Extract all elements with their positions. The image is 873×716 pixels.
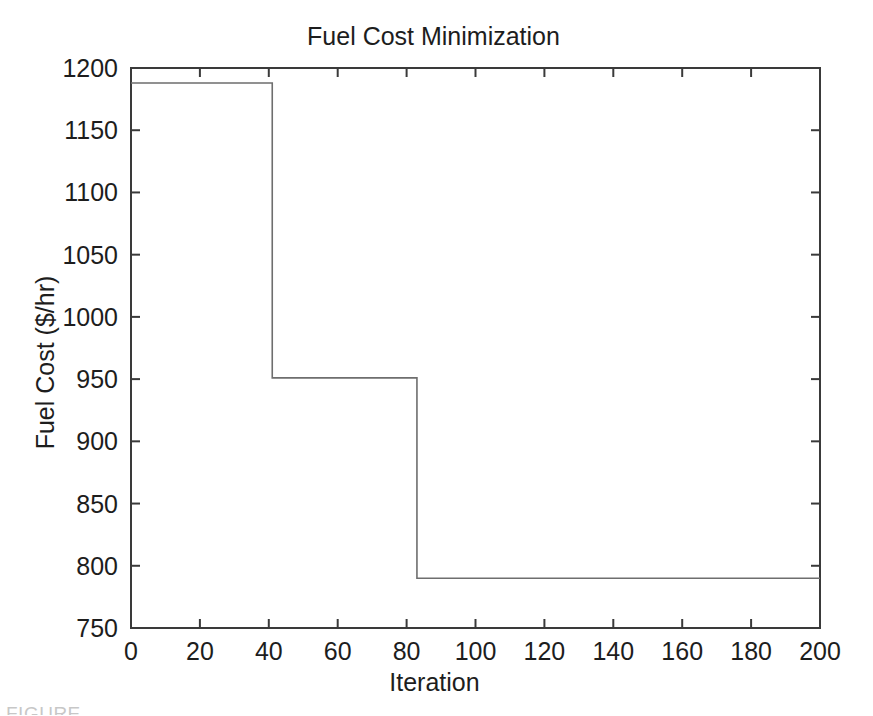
x-axis-label-text: Iteration xyxy=(389,668,479,696)
y-tick-label: 750 xyxy=(30,614,118,643)
y-tick-label: 1200 xyxy=(30,54,118,83)
y-tick-label: 1100 xyxy=(30,178,118,207)
x-tick-label: 0 xyxy=(124,637,138,666)
y-tick-label: 800 xyxy=(30,551,118,580)
x-tick-label: 160 xyxy=(661,637,703,666)
x-tick-label: 200 xyxy=(799,637,841,666)
caption-fragment: FIGURE xyxy=(6,703,246,715)
y-axis-label: Fuel Cost ($/hr) xyxy=(31,213,60,513)
x-axis-label: Iteration xyxy=(0,668,873,697)
figure-canvas: Fuel Cost Minimization 75080085090095010… xyxy=(0,0,873,716)
x-tick-label: 20 xyxy=(186,637,214,666)
plot-box-frame xyxy=(131,68,820,628)
chart-plot-area xyxy=(0,0,873,716)
data-series-line-0 xyxy=(131,83,820,578)
y-tick-label: 1150 xyxy=(30,116,118,145)
x-tick-label: 60 xyxy=(324,637,352,666)
x-tick-label: 140 xyxy=(592,637,634,666)
x-tick-label: 120 xyxy=(524,637,566,666)
x-tick-label: 40 xyxy=(255,637,283,666)
x-tick-label: 180 xyxy=(730,637,772,666)
x-tick-label: 100 xyxy=(455,637,497,666)
x-tick-label: 80 xyxy=(393,637,421,666)
y-axis-label-text: Fuel Cost ($/hr) xyxy=(31,276,59,450)
